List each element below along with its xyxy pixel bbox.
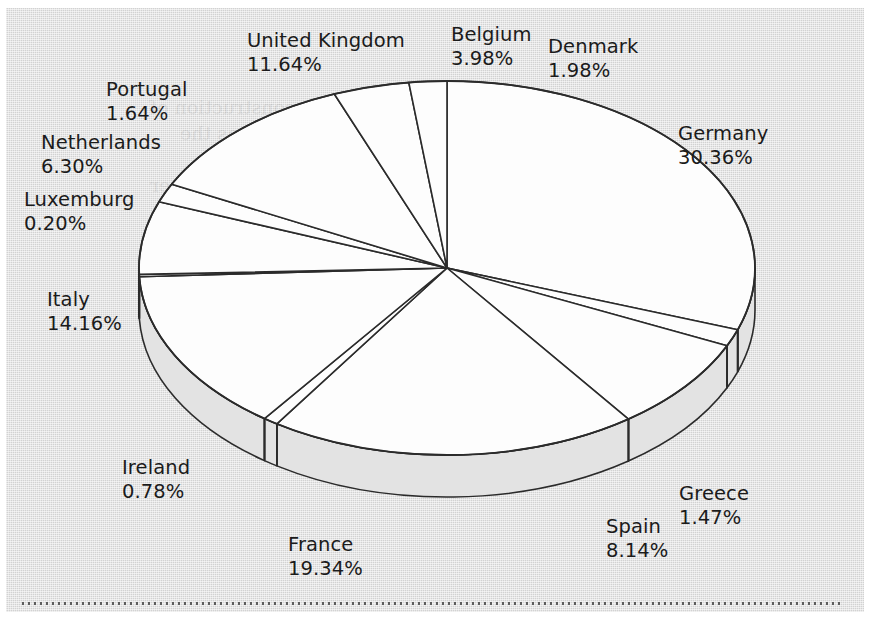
pie-label-ireland: Ireland0.78% xyxy=(122,456,190,504)
pie-label-name-spain: Spain xyxy=(606,515,668,539)
pie-label-denmark: Denmark1.98% xyxy=(548,35,638,83)
pie-label-name-united-kingdom: United Kingdom xyxy=(247,29,405,53)
scanned-page: the construction ofthe Union as thein th… xyxy=(0,0,870,619)
pie-label-value-france: 19.34% xyxy=(288,557,363,581)
pie-label-spain: Spain8.14% xyxy=(606,515,668,563)
pie-label-portugal: Portugal1.64% xyxy=(106,78,188,126)
dotted-rule-divider xyxy=(22,602,842,605)
pie-slice-side-ireland xyxy=(264,419,276,466)
pie-label-value-denmark: 1.98% xyxy=(548,59,638,83)
pie-label-germany: Germany30.36% xyxy=(678,122,768,170)
pie-label-name-italy: Italy xyxy=(47,288,122,312)
pie-label-value-greece: 1.47% xyxy=(679,506,749,530)
pie-label-value-luxemburg: 0.20% xyxy=(24,212,135,236)
pie-label-name-portugal: Portugal xyxy=(106,78,188,102)
pie-label-value-belgium: 3.98% xyxy=(451,47,532,71)
pie-label-france: France19.34% xyxy=(288,533,363,581)
pie-label-value-spain: 8.14% xyxy=(606,539,668,563)
pie-label-netherlands: Netherlands6.30% xyxy=(41,131,161,179)
pie-label-name-denmark: Denmark xyxy=(548,35,638,59)
pie-label-value-portugal: 1.64% xyxy=(106,102,188,126)
pie-label-value-germany: 30.36% xyxy=(678,146,768,170)
pie-label-belgium: Belgium3.98% xyxy=(451,23,532,71)
pie-label-name-france: France xyxy=(288,533,363,557)
pie-label-united-kingdom: United Kingdom11.64% xyxy=(247,29,405,77)
pie-label-name-belgium: Belgium xyxy=(451,23,532,47)
pie-label-name-luxemburg: Luxemburg xyxy=(24,188,135,212)
pie-label-value-ireland: 0.78% xyxy=(122,480,190,504)
pie-label-name-netherlands: Netherlands xyxy=(41,131,161,155)
pie-label-value-united-kingdom: 11.64% xyxy=(247,53,405,77)
pie-label-italy: Italy14.16% xyxy=(47,288,122,336)
pie-label-value-netherlands: 6.30% xyxy=(41,155,161,179)
pie-label-name-ireland: Ireland xyxy=(122,456,190,480)
pie-label-value-italy: 14.16% xyxy=(47,312,122,336)
pie-label-luxemburg: Luxemburg0.20% xyxy=(24,188,135,236)
pie-label-name-germany: Germany xyxy=(678,122,768,146)
pie-label-greece: Greece1.47% xyxy=(679,482,749,530)
pie-label-name-greece: Greece xyxy=(679,482,749,506)
